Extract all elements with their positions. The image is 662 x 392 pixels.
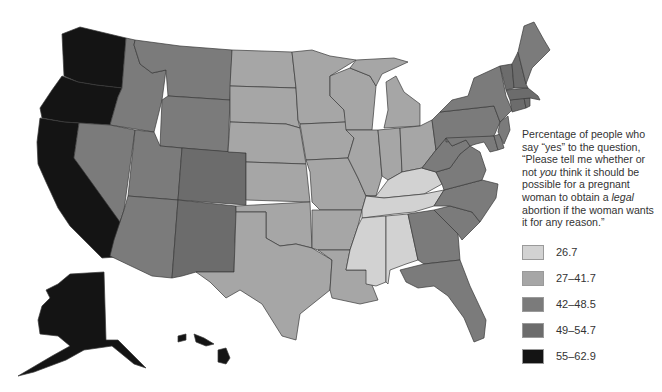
state-indiana xyxy=(378,128,402,180)
legend-swatch xyxy=(522,323,544,338)
state-hawaii xyxy=(218,348,230,364)
legend-swatch xyxy=(522,349,544,364)
legend-item: 26.7 xyxy=(522,240,662,266)
legend-label: 49–54.7 xyxy=(556,324,596,337)
state-washington xyxy=(62,27,126,88)
legend-title-text-3: abortion if the woman wants it for any r… xyxy=(522,204,654,229)
state-south-dakota xyxy=(230,86,300,128)
legend-title-emphasis-you: you xyxy=(540,166,557,178)
state-massachusetts xyxy=(506,88,540,100)
legend-label: 42–48.5 xyxy=(556,298,596,311)
state-colorado xyxy=(178,148,246,205)
legend-label: 27–41.7 xyxy=(556,272,596,285)
legend-swatch xyxy=(522,297,544,312)
legend: Percentage of people who say “yes” to th… xyxy=(522,128,662,370)
state-wyoming xyxy=(160,96,230,152)
state-michigan-lower xyxy=(384,76,420,128)
legend-swatch xyxy=(522,271,544,286)
legend-label: 55–62.9 xyxy=(556,350,596,363)
legend-item: 49–54.7 xyxy=(522,318,662,344)
legend-title: Percentage of people who say “yes” to th… xyxy=(522,128,662,229)
legend-item: 55–62.9 xyxy=(522,344,662,370)
legend-title-emphasis-legal: legal xyxy=(612,191,634,203)
state-north-dakota xyxy=(230,50,296,88)
legend-swatch xyxy=(522,245,544,260)
state-hawaii-islands xyxy=(178,334,186,342)
state-kansas xyxy=(246,162,310,202)
legend-label: 26.7 xyxy=(556,246,577,259)
state-florida xyxy=(400,260,486,342)
legend-item: 42–48.5 xyxy=(522,292,662,318)
state-hawaii-islands-2 xyxy=(194,334,214,346)
legend-item: 27–41.7 xyxy=(522,266,662,292)
state-alaska xyxy=(18,272,146,376)
state-new-mexico xyxy=(172,200,236,278)
